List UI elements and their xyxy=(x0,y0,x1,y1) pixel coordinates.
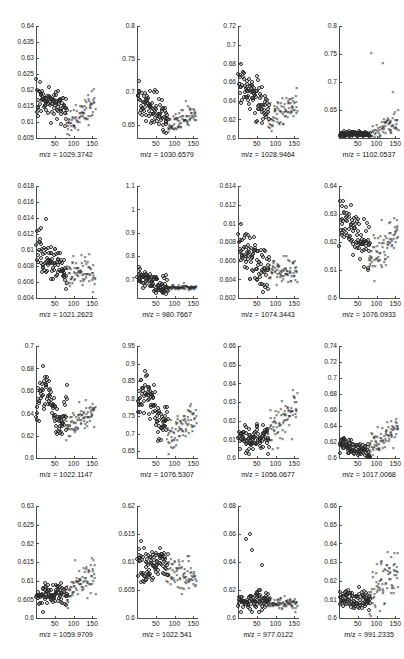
y-axis-tick xyxy=(137,590,140,591)
data-point-circle xyxy=(248,532,252,536)
data-point-circle xyxy=(260,563,264,567)
x-axis-tick-label: 100 xyxy=(266,300,286,308)
data-point-circle xyxy=(341,199,345,203)
y-axis-tick-label: 0.61 xyxy=(3,577,34,584)
x-axis-tick xyxy=(74,616,75,619)
data-point-circle xyxy=(144,119,148,123)
y-axis-tick-label: 0.64 xyxy=(306,540,337,547)
data-point-circle xyxy=(44,217,48,221)
x-axis-tick-label: 150 xyxy=(284,140,304,148)
y-axis-tick-label: 0.68 xyxy=(205,60,236,67)
data-point-circle xyxy=(39,242,43,246)
x-axis-tick xyxy=(193,296,194,299)
y-axis-tick-label: 0.85 xyxy=(104,377,135,384)
x-axis-tick xyxy=(55,616,56,619)
y-axis-tick-label: 0.62 xyxy=(306,438,337,445)
data-point-cross xyxy=(93,107,98,113)
y-axis-tick xyxy=(339,214,342,215)
y-axis-tick-label: 0.9 xyxy=(104,360,135,367)
data-point-circle xyxy=(142,411,146,415)
data-point-cross xyxy=(396,108,401,114)
y-axis-tick xyxy=(238,534,241,535)
x-axis-tick-label: 50 xyxy=(247,460,267,468)
x-axis-tick xyxy=(276,136,277,139)
x-axis-tick-label: 150 xyxy=(385,140,404,148)
x-axis-tick-label: 50 xyxy=(247,140,267,148)
data-point-cross xyxy=(390,90,395,96)
y-axis-tick xyxy=(137,416,140,417)
x-axis-tick-label: 150 xyxy=(284,460,304,468)
y-axis-tick xyxy=(36,218,39,219)
data-point-cross xyxy=(393,432,398,438)
y-axis-tick xyxy=(137,346,140,347)
data-point-circle xyxy=(65,397,69,401)
x-axis-tick xyxy=(294,456,295,459)
data-point-cross xyxy=(86,252,91,258)
y-axis-tick-label: 0.62 xyxy=(205,586,236,593)
scatter-panel: 0.650.70.750.850100150m/z = 1030.6579 xyxy=(103,14,204,174)
data-point-cross xyxy=(275,446,280,452)
y-axis-tick-label: 0.75 xyxy=(306,50,337,57)
x-axis-tick-label: 50 xyxy=(146,140,166,148)
y-axis-tick-label: 0.625 xyxy=(3,70,34,77)
scatter-panel: 0.60.610.620.630.6450100150m/z = 1076.09… xyxy=(305,174,404,334)
data-point-circle xyxy=(247,452,251,456)
x-axis-tick-label: 100 xyxy=(367,140,387,148)
y-axis-tick xyxy=(339,26,342,27)
x-axis-tick xyxy=(377,296,378,299)
data-point-circle xyxy=(56,89,60,93)
x-axis-tick xyxy=(358,296,359,299)
data-point-circle xyxy=(40,601,44,605)
y-axis-tick-label: 0.61 xyxy=(306,596,337,603)
data-point-cross xyxy=(180,559,185,565)
y-axis-tick-label: 0.7 xyxy=(205,41,236,48)
x-axis-line xyxy=(137,298,198,299)
x-axis-tick-label: 100 xyxy=(367,460,387,468)
data-point-circle xyxy=(261,290,265,294)
y-axis-tick-label: 0.6 xyxy=(104,614,135,621)
y-axis-tick xyxy=(36,506,39,507)
y-axis-tick xyxy=(36,581,39,582)
data-point-circle xyxy=(55,273,59,277)
data-point-circle xyxy=(260,121,264,125)
data-point-cross xyxy=(93,405,98,411)
data-point-cross xyxy=(268,276,273,282)
x-axis-tick-label: 150 xyxy=(385,620,404,628)
y-axis-tick xyxy=(137,451,140,452)
data-point-cross xyxy=(295,391,300,397)
y-axis-tick xyxy=(36,525,39,526)
y-axis-tick xyxy=(36,74,39,75)
x-axis-tick xyxy=(156,296,157,299)
scatter-panel: 0.60.620.640.660.680.70.720.7450100150m/… xyxy=(305,334,404,494)
x-axis-line xyxy=(238,138,299,139)
x-axis-tick-label: 100 xyxy=(266,620,286,628)
y-axis-tick xyxy=(137,59,140,60)
y-axis-tick xyxy=(238,562,241,563)
data-point-circle xyxy=(244,537,248,541)
x-axis-tick-label: 100 xyxy=(64,140,84,148)
data-point-cross xyxy=(380,61,385,67)
x-axis-line xyxy=(238,458,299,459)
data-point-circle xyxy=(65,383,69,387)
scatter-panel: 0.6020.6040.6060.6080.610.6120.614501001… xyxy=(204,174,305,334)
x-axis-tick xyxy=(55,456,56,459)
x-axis-tick-label: 100 xyxy=(165,620,185,628)
y-axis-tick-label: 0.68 xyxy=(306,390,337,397)
data-point-circle xyxy=(351,253,355,257)
data-point-circle xyxy=(248,107,252,111)
x-axis-tick-label: 50 xyxy=(247,620,267,628)
data-point-circle xyxy=(44,270,48,274)
y-axis-tick xyxy=(137,209,140,210)
x-axis-tick xyxy=(92,456,93,459)
data-point-cross xyxy=(194,579,199,585)
x-axis-tick xyxy=(175,616,176,619)
y-axis-tick xyxy=(339,410,342,411)
y-axis-tick-label: 0.612 xyxy=(205,201,236,208)
y-axis-tick-label: 0.62 xyxy=(205,417,236,424)
data-point-cross xyxy=(294,600,299,606)
data-point-cross xyxy=(391,246,396,252)
data-point-circle xyxy=(165,405,169,409)
scatter-panel: 0.60.620.640.660.6850100150m/z = 977.012… xyxy=(204,494,305,654)
x-axis-tick xyxy=(358,616,359,619)
data-point-cross xyxy=(295,109,300,115)
